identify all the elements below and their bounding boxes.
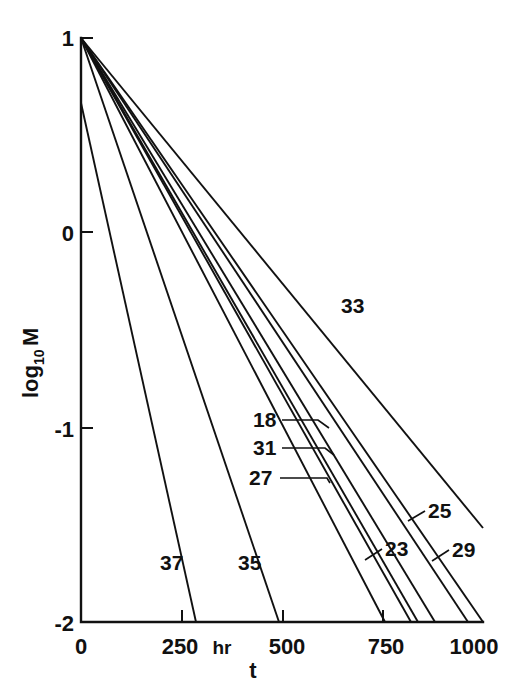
curve-23 (81, 38, 385, 622)
curve-29 (81, 38, 483, 622)
y-axis-title-tail: M (18, 328, 43, 346)
curve-label-33: 33 (341, 294, 364, 317)
curve-label-23: 23 (385, 537, 408, 560)
y-tick-label-1: 1 (62, 26, 74, 51)
x-tick-label-1000: 1000 (450, 634, 499, 659)
chart-figure: 1 0 -1 -2 0 250 hr 500 750 1000 t log 10… (0, 0, 523, 691)
y-axis-title-group: log 10 M (18, 328, 47, 398)
curve-label-31: 31 (253, 436, 277, 459)
curve-25 (81, 38, 468, 622)
x-tick-label-750: 750 (368, 634, 405, 659)
x-axis-unit-label: hr (213, 637, 233, 658)
y-tick-label-minus1: -1 (54, 417, 74, 442)
leader-31 (282, 448, 334, 455)
y-tick-label-minus2: -2 (54, 611, 74, 636)
curve-label-29: 29 (452, 538, 475, 561)
leader-27 (280, 478, 330, 483)
y-axis-title-main: log (18, 365, 43, 398)
curve-27 (81, 38, 435, 622)
x-axis-title: t (249, 658, 257, 683)
curve-label-35: 35 (238, 551, 262, 574)
curve-label-27: 27 (249, 466, 272, 489)
curve-label-18: 18 (253, 408, 277, 431)
curve-33 (81, 38, 483, 528)
curve-label-25: 25 (428, 499, 452, 522)
x-tick-label-250: 250 (162, 634, 199, 659)
semilog-decay-chart: 1 0 -1 -2 0 250 hr 500 750 1000 t log 10… (0, 0, 523, 691)
x-tick-label-500: 500 (269, 634, 306, 659)
y-axis-title-subscript: 10 (31, 349, 47, 365)
curve-label-37: 37 (160, 551, 183, 574)
y-tick-label-0: 0 (62, 221, 74, 246)
x-tick-label-0: 0 (75, 634, 87, 659)
